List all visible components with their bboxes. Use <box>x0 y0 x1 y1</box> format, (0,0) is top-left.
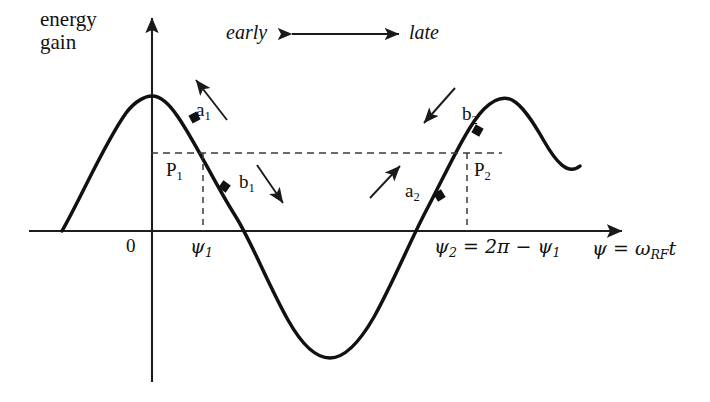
y-axis-title: energy gain <box>40 8 97 53</box>
rf-waveform-curve <box>62 96 580 358</box>
arrow-b2-motion <box>424 88 455 123</box>
late-label: late <box>409 22 439 44</box>
y-axis-title-line2: gain <box>40 30 76 54</box>
particle-label-b2: b2 <box>462 104 478 127</box>
particle-label-b1: b1 <box>239 172 255 195</box>
psi1-tick-label: ψ1 <box>190 236 213 259</box>
particle-label-a2: a2 <box>405 181 420 204</box>
particle-label-a1: a1 <box>196 100 211 123</box>
x-axis-title: ψ = ωRFt <box>592 238 676 261</box>
psi2-tick-label: ψ2 = 2π − ψ1 <box>434 236 560 259</box>
early-label: early <box>226 22 267 44</box>
arrow-b1-motion <box>257 165 283 203</box>
arrow-a2-motion <box>370 166 400 198</box>
figure-canvas <box>0 0 710 402</box>
synchronous-point-label-P2: P2 <box>474 160 491 183</box>
y-axis-title-line1: energy <box>40 7 97 31</box>
synchronous-point-label-P1: P1 <box>166 160 183 183</box>
origin-tick-label: 0 <box>126 236 136 257</box>
rf-phase-stability-figure: energy gain early late a1 b1 a2 b2 P1 P2… <box>0 0 710 402</box>
